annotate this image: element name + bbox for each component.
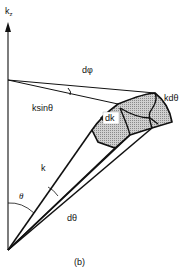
dk-label: dk	[105, 113, 115, 123]
figure-caption: (b)	[74, 257, 85, 267]
radial-lines	[8, 128, 152, 250]
spherical-shell-element-diagram: dk kz dφ kdθ ksinθ k θ dθ (b)	[0, 0, 181, 270]
dtheta-label: dθ	[67, 213, 77, 223]
ksintheta-label: ksinθ	[32, 103, 53, 113]
dphi-label: dφ	[82, 65, 93, 75]
k-radius-label: k	[41, 163, 46, 173]
kz-axis-label: kz	[5, 6, 13, 17]
theta-label: θ	[19, 191, 24, 201]
theta-arc	[8, 203, 34, 213]
kdtheta-label: kdθ	[164, 93, 179, 103]
kz-axis	[5, 22, 11, 250]
